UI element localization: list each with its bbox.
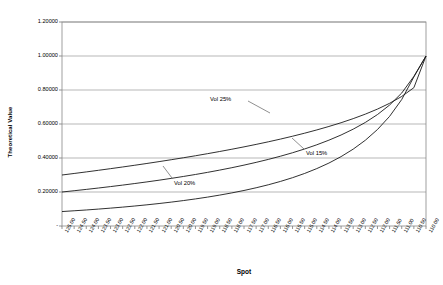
x-axis-tick-label: 110.50 xyxy=(415,218,427,234)
x-axis-tick-label: 110.00 xyxy=(428,218,440,234)
x-axis-tick-label: 122.50 xyxy=(124,217,136,233)
x-axis-tick-label: 113.50 xyxy=(343,218,355,234)
x-axis-tick-label: 112.50 xyxy=(367,218,379,234)
x-axis-tick-label: 115.50 xyxy=(294,218,306,234)
x-axis-tick-label: 122.00 xyxy=(136,217,148,233)
x-axis-tick-label: 121.50 xyxy=(148,217,160,233)
x-axis-tick-label: 111.00 xyxy=(403,218,415,234)
series-annotation-vol-15: Vol 15% xyxy=(306,150,327,156)
x-axis-tick-label: 118.00 xyxy=(233,218,245,234)
x-axis-tick-label: 111.50 xyxy=(391,218,403,234)
x-axis-tick-label: 119.50 xyxy=(197,218,209,234)
x-axis-tick-label: 124.50 xyxy=(76,217,88,233)
x-axis-tick-label: 117.50 xyxy=(246,218,258,234)
x-axis-tick-label: 123.50 xyxy=(100,217,112,233)
x-axis-tick-label: 113.00 xyxy=(355,218,367,234)
series-annotation-vol-25: Vol 25% xyxy=(210,96,231,102)
x-axis-tick-label: 114.00 xyxy=(330,218,342,234)
x-axis-tick-label: 118.50 xyxy=(221,218,233,234)
x-axis-tick-label: 114.50 xyxy=(318,218,330,234)
x-axis-tick-label: 124.00 xyxy=(88,217,100,233)
x-axis-tick-label: 116.50 xyxy=(270,218,282,234)
x-axis-tick-labels: 125.00124.50124.00123.50123.00122.50122.… xyxy=(0,0,443,285)
x-axis-tick-label: 115.00 xyxy=(306,218,318,234)
x-axis-tick-label: 112.00 xyxy=(379,218,391,234)
x-axis-title: Spot xyxy=(62,268,426,275)
x-axis-tick-label: 120.50 xyxy=(173,217,185,233)
chart-container: Theoretical Value -0.200000.400000.60000… xyxy=(0,0,443,285)
x-axis-tick-label: 121.00 xyxy=(161,217,173,233)
x-axis-tick-label: 117.00 xyxy=(258,218,270,234)
x-axis-tick-label: 116.00 xyxy=(282,218,294,234)
x-axis-tick-label: 119.00 xyxy=(209,218,221,234)
x-axis-tick-label: 125.00 xyxy=(64,217,76,233)
x-axis-tick-label: 120.00 xyxy=(185,217,197,233)
series-annotation-vol-20: Vol 20% xyxy=(174,180,195,186)
x-axis-tick-label: 123.00 xyxy=(112,217,124,233)
